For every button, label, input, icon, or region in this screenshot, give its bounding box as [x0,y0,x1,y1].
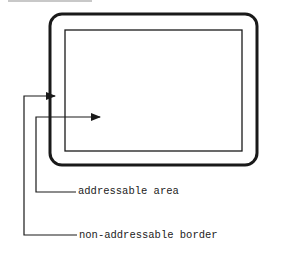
addressable-area-rect [65,30,242,151]
outer-screen-frame [50,14,257,165]
non-addressable-border-label: non-addressable border [79,229,218,241]
addressable-area-leader [36,117,100,192]
screen-diagram [0,0,282,253]
addressable-area-label: addressable area [78,185,179,197]
